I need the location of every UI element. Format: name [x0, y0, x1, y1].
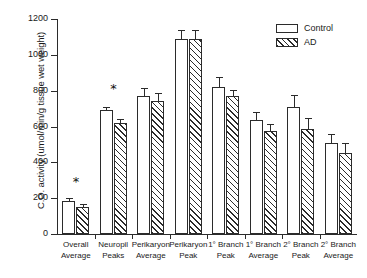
significance-asterisk: *	[73, 177, 80, 187]
bar-control-2	[137, 96, 150, 234]
error-bar-cap	[178, 30, 185, 31]
x-axis-label-line: 2° Branch	[310, 240, 366, 251]
y-axis-tick-label: 200	[10, 192, 48, 202]
y-axis-tick-label: 0	[10, 228, 48, 238]
error-bar	[308, 119, 309, 129]
plot-area: **	[57, 19, 357, 234]
error-bar-cap	[117, 119, 124, 120]
x-axis-group-tick	[282, 234, 283, 239]
error-bar-cap	[342, 143, 349, 144]
error-bar	[270, 125, 271, 131]
y-axis-tick	[51, 234, 57, 235]
error-bar	[219, 78, 220, 87]
y-axis-tick-label: 1200	[10, 13, 48, 23]
bar-control-6	[287, 107, 300, 234]
y-axis-tick-label: 400	[10, 156, 48, 166]
legend-label: Control	[304, 23, 333, 33]
error-bar	[69, 199, 70, 201]
y-axis-tick-label: 600	[10, 121, 48, 131]
x-axis-group-tick	[95, 234, 96, 239]
legend-swatch-control	[276, 24, 298, 33]
y-axis-tick-label: 800	[10, 85, 48, 95]
error-bar	[144, 89, 145, 96]
legend-swatch-ad	[276, 38, 298, 47]
bar-ad-5	[264, 131, 277, 234]
bar-ad-3	[189, 39, 202, 234]
error-bar	[83, 205, 84, 207]
legend: ControlAD	[276, 22, 333, 50]
error-bar-cap	[305, 118, 312, 119]
error-bar	[331, 135, 332, 142]
error-bar-cap	[328, 134, 335, 135]
error-bar	[106, 108, 107, 111]
legend-item: AD	[276, 36, 333, 48]
bar-ad-1	[114, 123, 127, 234]
error-bar-cap	[291, 95, 298, 96]
error-bar-cap	[216, 77, 223, 78]
legend-label: AD	[304, 37, 317, 47]
bar-ad-7	[339, 153, 352, 234]
error-bar-cap	[192, 30, 199, 31]
bar-ad-6	[301, 129, 314, 234]
error-bar-cap	[103, 107, 110, 108]
x-axis-group-tick	[170, 234, 171, 239]
error-bar-cap	[80, 204, 87, 205]
error-bar-cap	[155, 93, 162, 94]
bar-control-0	[62, 201, 75, 234]
bar-control-7	[325, 143, 338, 234]
error-bar-cap	[230, 90, 237, 91]
bar-ad-0	[76, 207, 89, 234]
x-axis-label-line: Average	[310, 251, 366, 262]
error-bar-cap	[253, 112, 260, 113]
bar-chart-figure: C.O. activity (umol/min/g tissue wet wei…	[0, 0, 367, 278]
x-axis-group-tick	[207, 234, 208, 239]
error-bar	[181, 31, 182, 39]
bar-control-1	[100, 110, 113, 234]
x-axis-category-label: 2° BranchAverage	[310, 240, 366, 261]
significance-asterisk: *	[110, 84, 117, 94]
error-bar	[158, 94, 159, 100]
error-bar	[120, 120, 121, 123]
error-bar	[256, 113, 257, 120]
error-bar-cap	[267, 124, 274, 125]
y-axis-tick-label: 1000	[10, 49, 48, 59]
bar-ad-2	[151, 101, 164, 234]
x-axis-group-tick	[132, 234, 133, 239]
bar-ad-4	[226, 96, 239, 234]
error-bar	[233, 91, 234, 96]
error-bar	[345, 144, 346, 153]
error-bar-cap	[141, 88, 148, 89]
bar-control-5	[250, 120, 263, 234]
bar-control-3	[175, 39, 188, 234]
error-bar	[294, 96, 295, 107]
error-bar	[195, 31, 196, 39]
legend-item: Control	[276, 22, 333, 34]
bar-control-4	[212, 87, 225, 234]
x-axis-group-tick	[245, 234, 246, 239]
error-bar-cap	[66, 198, 73, 199]
x-axis-group-tick	[320, 234, 321, 239]
